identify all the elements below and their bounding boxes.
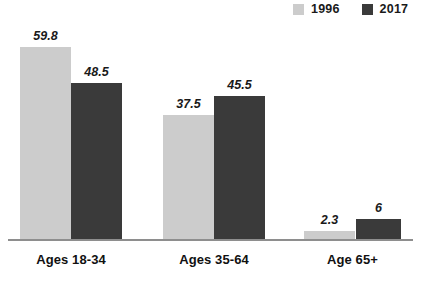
bar-chart: 1996 2017 59.8 48.5 37.5 45.5 2.3 6 xyxy=(0,0,421,283)
bar-2017-ages-35-64[interactable] xyxy=(214,96,265,239)
bar-value-1996-age-65-plus: 2.3 xyxy=(304,214,355,227)
x-axis-baseline xyxy=(8,239,413,241)
bar-2017-age-65-plus[interactable] xyxy=(356,219,401,239)
bar-group-ages-35-64: 37.5 45.5 xyxy=(163,0,265,239)
bar-group-age-65-plus: 2.3 6 xyxy=(304,0,401,239)
bar-1996-age-65-plus[interactable] xyxy=(304,231,355,239)
bar-value-2017-ages-18-34: 48.5 xyxy=(71,66,122,79)
bar-group-ages-18-34: 59.8 48.5 xyxy=(20,0,122,239)
bar-value-2017-age-65-plus: 6 xyxy=(356,202,401,215)
plot-area: 59.8 48.5 37.5 45.5 2.3 6 xyxy=(0,0,421,241)
bar-value-1996-ages-18-34: 59.8 xyxy=(20,30,71,43)
bar-1996-ages-35-64[interactable] xyxy=(163,115,214,239)
bar-value-2017-ages-35-64: 45.5 xyxy=(214,79,265,92)
x-axis-label-ages-35-64: Ages 35-64 xyxy=(163,252,265,267)
bar-value-1996-ages-35-64: 37.5 xyxy=(163,98,214,111)
x-axis-label-ages-18-34: Ages 18-34 xyxy=(20,252,122,267)
bar-2017-ages-18-34[interactable] xyxy=(71,83,122,239)
x-axis-label-age-65-plus: Age 65+ xyxy=(304,252,401,267)
bar-1996-ages-18-34[interactable] xyxy=(20,47,71,239)
